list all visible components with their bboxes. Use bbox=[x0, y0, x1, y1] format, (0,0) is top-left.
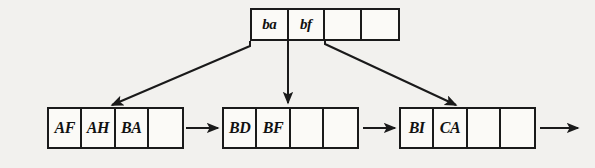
leaf-node-2[interactable]: BD BF bbox=[222, 107, 359, 149]
leaf-node-3-cell-2[interactable]: CA bbox=[434, 109, 467, 147]
pointer-root-to-leaf-1 bbox=[112, 41, 250, 105]
leaf-node-3-cell-3[interactable] bbox=[468, 109, 501, 147]
leaf-node-2-cell-2[interactable]: BF bbox=[257, 109, 290, 147]
leaf-node-3-cell-1[interactable]: BI bbox=[401, 109, 434, 147]
leaf-node-1-cell-2[interactable]: AH bbox=[82, 109, 115, 147]
leaf-node-1-cell-1[interactable]: AF bbox=[49, 109, 82, 147]
index-node-cell-3[interactable] bbox=[325, 10, 362, 39]
leaf-node-1-cell-4[interactable] bbox=[149, 109, 182, 147]
leaf-node-1[interactable]: AF AH BA bbox=[47, 107, 184, 149]
leaf-node-3-cell-4[interactable] bbox=[501, 109, 534, 147]
leaf-node-2-cell-4[interactable] bbox=[324, 109, 357, 147]
leaf-node-2-cell-1[interactable]: BD bbox=[224, 109, 257, 147]
index-node[interactable]: ba bf bbox=[250, 8, 400, 41]
btree-diagram: ba bf AF AH BA BD BF BI CA bbox=[0, 0, 595, 168]
leaf-node-3[interactable]: BI CA bbox=[399, 107, 536, 149]
pointer-root-to-leaf-3 bbox=[325, 41, 456, 105]
leaf-node-2-cell-3[interactable] bbox=[291, 109, 324, 147]
index-node-cell-2[interactable]: bf bbox=[289, 10, 326, 39]
leaf-node-1-cell-3[interactable]: BA bbox=[116, 109, 149, 147]
index-node-cell-4[interactable] bbox=[362, 10, 398, 39]
index-node-cell-1[interactable]: ba bbox=[252, 10, 289, 39]
